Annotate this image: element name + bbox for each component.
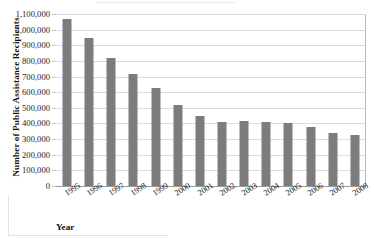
bar-series bbox=[56, 14, 366, 186]
bar-slot bbox=[211, 14, 233, 186]
bar-slot bbox=[122, 14, 144, 186]
y-axis-tick-label: 0 bbox=[46, 181, 50, 191]
bar-slot bbox=[322, 14, 344, 186]
bar bbox=[85, 38, 94, 186]
bar bbox=[173, 105, 182, 186]
bar bbox=[284, 123, 293, 186]
x-axis-tick-labels: 1995199619971998199920002001200220032004… bbox=[56, 186, 366, 226]
y-axis-tick-label: 100,000 bbox=[22, 165, 50, 175]
bar bbox=[195, 116, 204, 186]
y-axis-tick-label: 400,000 bbox=[22, 118, 50, 128]
bar-chart: Number of Public Assistance Recipients 0… bbox=[0, 0, 374, 238]
y-axis-tick-label: 500,000 bbox=[22, 103, 50, 113]
bar-slot bbox=[100, 14, 122, 186]
bar bbox=[306, 127, 315, 186]
bar bbox=[328, 133, 337, 186]
y-axis-tick-label: 200,000 bbox=[22, 150, 50, 160]
y-axis-tick-label: 1,000,000 bbox=[16, 25, 50, 35]
bar bbox=[107, 58, 116, 186]
bar-slot bbox=[145, 14, 167, 186]
y-axis-tick-label: 800,000 bbox=[22, 56, 50, 66]
bar bbox=[63, 19, 72, 186]
y-axis-tick-label: 1,100,000 bbox=[16, 9, 50, 19]
bar bbox=[218, 122, 227, 186]
scan-edge-artifact-top bbox=[96, 2, 236, 3]
bar bbox=[151, 88, 160, 186]
bar bbox=[350, 135, 359, 186]
bar-slot bbox=[277, 14, 299, 186]
y-axis-tick-label: 900,000 bbox=[22, 40, 50, 50]
bar-slot bbox=[233, 14, 255, 186]
y-axis-tick-labels: 0100,000200,000300,000400,000500,000600,… bbox=[0, 0, 53, 238]
bar-slot bbox=[189, 14, 211, 186]
bar-slot bbox=[255, 14, 277, 186]
bar bbox=[262, 122, 271, 186]
y-axis-tick-label: 600,000 bbox=[22, 87, 50, 97]
bar-slot bbox=[300, 14, 322, 186]
bar bbox=[129, 74, 138, 186]
bar-slot bbox=[56, 14, 78, 186]
bar-slot bbox=[167, 14, 189, 186]
bar-slot bbox=[78, 14, 100, 186]
x-axis-title: Year bbox=[56, 222, 176, 232]
y-axis-tick-label: 300,000 bbox=[22, 134, 50, 144]
bar-slot bbox=[344, 14, 366, 186]
bar bbox=[240, 121, 249, 186]
y-axis-tick-label: 700,000 bbox=[22, 72, 50, 82]
